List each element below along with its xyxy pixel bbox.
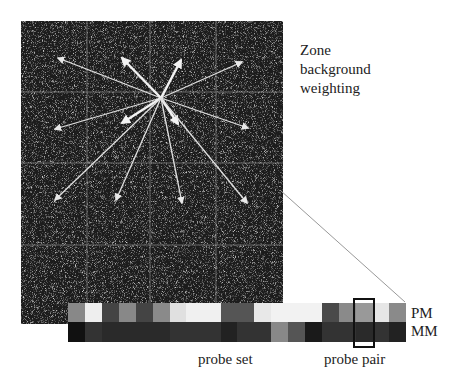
- probe-cell: [322, 303, 339, 322]
- probe-cell: [68, 322, 85, 342]
- probe-cell: [186, 303, 204, 322]
- figure: Zone background weighting PM MM probe se…: [0, 0, 464, 391]
- zone-background-weighting-label: Zone background weighting: [300, 41, 400, 98]
- probe-cell: [254, 322, 271, 342]
- pm-label: PM: [411, 304, 433, 323]
- probe-cell: [68, 303, 85, 322]
- probe-cell: [136, 322, 153, 342]
- probe-cell: [186, 322, 204, 342]
- probe-cell: [102, 322, 119, 342]
- probe-cell: [389, 322, 406, 342]
- probe-cell: [221, 303, 237, 322]
- microarray-image: [21, 21, 283, 324]
- probe-cell: [170, 322, 186, 342]
- probe-cell: [119, 303, 136, 322]
- probe-cell: [254, 303, 271, 322]
- probe-pair-label: probe pair: [324, 350, 385, 369]
- probe-cell: [221, 322, 237, 342]
- probe-cell: [373, 322, 389, 342]
- zoom-connector-line: [280, 190, 405, 302]
- probe-cell: [373, 303, 389, 322]
- probe-cell: [153, 303, 170, 322]
- probe-pair-highlight-box: [353, 298, 375, 348]
- probe-set-label: probe set: [198, 350, 253, 369]
- probe-cell: [204, 303, 221, 322]
- probe-cell: [322, 322, 339, 342]
- probe-cell: [102, 303, 119, 322]
- probe-cell: [153, 322, 170, 342]
- probe-cell: [271, 322, 288, 342]
- probe-cell: [237, 303, 254, 322]
- probe-cell: [119, 322, 136, 342]
- mm-label: MM: [411, 322, 438, 341]
- probe-cell: [170, 303, 186, 322]
- probe-cell: [271, 303, 288, 322]
- probe-cell: [288, 303, 305, 322]
- probe-cell: [305, 322, 322, 342]
- zone-label-line: Zone: [300, 41, 400, 60]
- probe-cell: [389, 303, 406, 322]
- zone-label-line: weighting: [300, 79, 400, 98]
- probe-cell: [288, 322, 305, 342]
- probe-cell: [85, 303, 102, 322]
- probe-cell: [85, 322, 102, 342]
- probe-cell: [136, 303, 153, 322]
- probe-cell: [204, 322, 221, 342]
- probe-cell: [237, 322, 254, 342]
- probe-cell: [305, 303, 322, 322]
- zone-label-line: background: [300, 60, 400, 79]
